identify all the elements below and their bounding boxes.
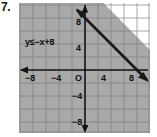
problem-number: 7.	[1, 1, 10, 14]
graph-svg	[19, 3, 150, 133]
y-tick-label-4: 4	[76, 44, 81, 53]
y-tick-label--4: −4	[72, 92, 82, 101]
x-tick-label--4: −4	[51, 74, 61, 83]
x-tick-label-4: 4	[101, 74, 106, 83]
coordinate-graph: y≤−x+8 −8 −4 4 8 O 8 4 −4 −8 y x	[19, 3, 150, 133]
y-tick-label--8: −8	[72, 118, 82, 127]
inequality-label: y≤−x+8	[25, 37, 54, 47]
y-tick-label-8: 8	[76, 18, 81, 27]
figure-container: 7.	[0, 0, 157, 137]
x-tick-label--8: −8	[25, 74, 35, 83]
origin-label: O	[75, 74, 82, 83]
x-tick-label-8: 8	[129, 74, 134, 83]
